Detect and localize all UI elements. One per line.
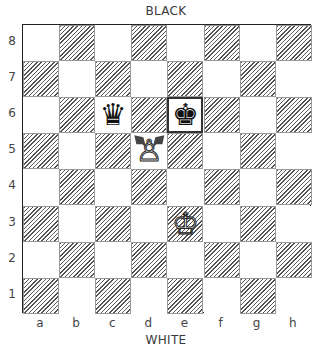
chess-board: ♛♚♙♔	[22, 24, 311, 313]
black-side-label: BLACK	[0, 4, 324, 18]
rank-label-7: 7	[7, 70, 17, 84]
file-label-a: a	[22, 316, 58, 330]
arrow-icon	[152, 135, 164, 148]
rank-label-2: 2	[7, 251, 17, 265]
capture-arrows	[23, 25, 312, 314]
file-label-b: b	[58, 316, 94, 330]
rank-label-1: 1	[7, 287, 17, 301]
file-label-e: e	[166, 316, 202, 330]
arrow-icon	[134, 135, 146, 148]
rank-label-6: 6	[7, 106, 17, 120]
file-label-g: g	[239, 316, 275, 330]
file-label-f: f	[203, 316, 239, 330]
file-label-d: d	[130, 316, 166, 330]
rank-label-3: 3	[7, 215, 17, 229]
rank-label-4: 4	[7, 178, 17, 192]
rank-label-5: 5	[7, 142, 17, 156]
file-label-h: h	[275, 316, 311, 330]
white-side-label: WHITE	[0, 333, 324, 347]
rank-label-8: 8	[7, 34, 17, 48]
file-label-c: c	[94, 316, 130, 330]
